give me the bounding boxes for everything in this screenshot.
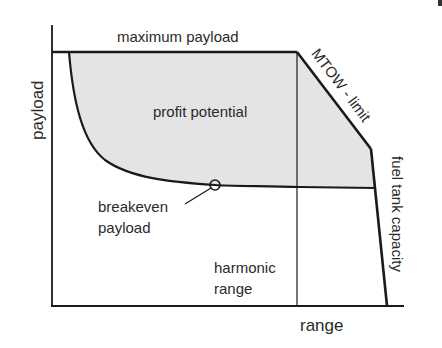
breakeven-label-line2: payload	[98, 219, 151, 238]
y-axis-label: payload	[27, 80, 48, 140]
profit-potential-label: profit potential	[153, 103, 247, 122]
harmonic-range-label-line2: range	[214, 280, 252, 299]
x-axis-label: range	[300, 315, 343, 336]
corner-mark	[438, 0, 442, 6]
harmonic-range-label-line1: harmonic	[214, 259, 276, 278]
maximum-payload-label: maximum payload	[117, 28, 239, 47]
fuel-tank-capacity-label: fuel tank capacity	[387, 156, 406, 272]
fuel-tank-capacity-line	[371, 149, 387, 306]
breakeven-label-line1: breakeven	[98, 198, 168, 217]
breakeven-leader-line	[185, 188, 211, 204]
